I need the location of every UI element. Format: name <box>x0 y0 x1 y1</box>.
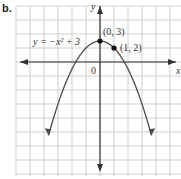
origin-label: 0 <box>91 66 96 76</box>
y-axis-label: y <box>91 2 95 12</box>
point-label-1-2: (1, 2) <box>120 43 142 53</box>
coordinate-plane <box>0 0 181 179</box>
grid-lines <box>16 6 181 176</box>
point-label-vertex: (0, 3) <box>103 27 125 37</box>
equation-label: y = −x² + 3 <box>33 37 80 47</box>
axes <box>20 6 176 172</box>
x-axis-label: x <box>176 66 180 76</box>
